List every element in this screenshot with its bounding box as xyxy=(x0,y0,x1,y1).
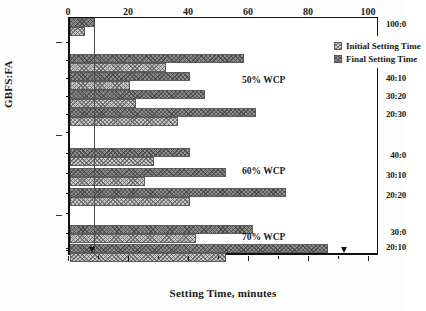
bar-final xyxy=(70,90,205,99)
y-tick-mark xyxy=(66,132,70,133)
x-tick-mark-minor-50 xyxy=(218,256,219,259)
x-tick-mark-100 xyxy=(368,256,369,261)
reference-line xyxy=(94,18,95,253)
bar-final xyxy=(70,244,328,253)
annotation-70-wcp: 70% WCP xyxy=(242,232,285,242)
x-tick-label-60: 60 xyxy=(243,6,253,17)
legend-entry-final: Final Setting Time xyxy=(334,52,426,65)
x-tick-label-100: 100 xyxy=(361,6,376,17)
axis-marker-left xyxy=(89,247,95,253)
x-tick-mark-20 xyxy=(128,256,129,261)
plot-area: 50% WCP 60% WCP 70% WCP Initial Setting … xyxy=(68,17,378,255)
x-tick-mark-minor-70 xyxy=(278,256,279,259)
bar-final xyxy=(70,108,256,117)
x-tick-label-40: 40 xyxy=(183,6,193,17)
annotation-50-wcp: 50% WCP xyxy=(242,75,285,85)
x-tick-mark-80 xyxy=(308,256,309,261)
bar-initial xyxy=(70,177,145,186)
bar-final xyxy=(70,72,190,81)
bar-initial xyxy=(70,27,85,36)
legend-entry-initial: Initial Setting Time xyxy=(334,39,426,52)
annotation-60-wcp: 60% WCP xyxy=(242,166,285,176)
x-tick-mark-minor-30 xyxy=(158,256,159,259)
bar-final xyxy=(70,54,244,63)
axis-marker-right xyxy=(341,247,347,253)
y-tick-mark xyxy=(66,42,70,43)
y-separator-dash-2 xyxy=(56,135,62,136)
legend-swatch-initial-icon xyxy=(334,42,342,50)
y-axis-title: GBFS:FA xyxy=(2,60,14,108)
bar-initial xyxy=(70,63,166,72)
bar-initial xyxy=(70,197,190,206)
bar-final xyxy=(70,225,253,234)
x-tick-mark-40 xyxy=(188,256,189,261)
chart-legend: Initial Setting Time Final Setting Time xyxy=(331,36,426,68)
y-separator-dash-3 xyxy=(56,215,62,216)
legend-label-final: Final Setting Time xyxy=(346,54,417,64)
y-tick-mark xyxy=(66,213,70,214)
bar-final xyxy=(70,188,286,197)
x-tick-mark-0 xyxy=(68,256,69,261)
x-tick-label-0: 0 xyxy=(66,6,71,17)
legend-label-initial: Initial Setting Time xyxy=(346,41,421,51)
bar-initial xyxy=(70,117,178,126)
bar-initial xyxy=(70,253,226,262)
x-tick-label-20: 20 xyxy=(123,6,133,17)
bar-final xyxy=(70,18,94,27)
x-tick-mark-60 xyxy=(248,256,249,261)
bar-initial xyxy=(70,99,136,108)
bar-initial xyxy=(70,157,154,166)
x-axis-title: Setting Time, minutes xyxy=(68,287,378,299)
x-tick-mark-minor-90 xyxy=(338,256,339,259)
bar-initial xyxy=(70,81,130,90)
y-separator-dash-1 xyxy=(56,42,62,43)
x-tick-label-80: 80 xyxy=(303,6,313,17)
legend-swatch-final-icon xyxy=(334,55,342,63)
bar-initial xyxy=(70,234,196,243)
x-tick-mark-minor-10 xyxy=(98,256,99,259)
bar-final xyxy=(70,148,190,157)
